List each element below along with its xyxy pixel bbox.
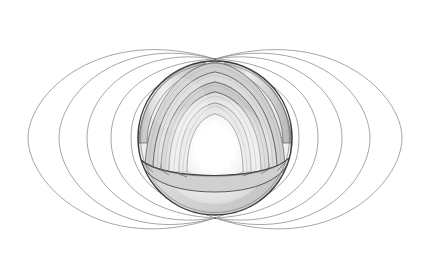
north-magnetic-pole xyxy=(214,58,216,60)
figure-root: Earth's dipolar magnetic field with cuta… xyxy=(0,0,430,275)
earth-globe xyxy=(136,60,294,229)
south-magnetic-pole xyxy=(214,217,216,219)
magnetic-field-diagram xyxy=(0,0,430,275)
